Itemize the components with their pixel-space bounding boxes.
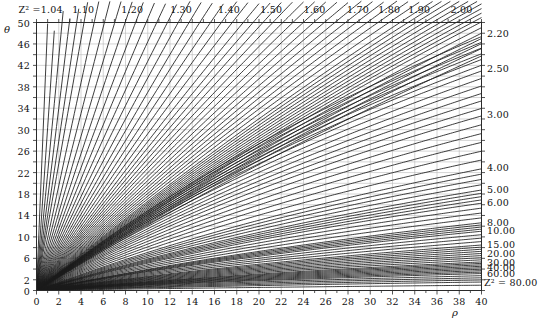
x-tick-label-18: 18 bbox=[227, 296, 247, 307]
x-tick-label-36: 36 bbox=[427, 296, 447, 307]
top-label-z2-1p10: 1.10 bbox=[71, 4, 95, 15]
right-label-z2-80p00: Z² = 80.00 bbox=[484, 277, 538, 288]
x-tick-label-40: 40 bbox=[472, 296, 492, 307]
y-tick-label-10: 10 bbox=[10, 232, 30, 243]
top-label-z2-1p90: 1.90 bbox=[407, 4, 431, 15]
x-tick-label-22: 22 bbox=[271, 296, 291, 307]
top-label-z2-1p60: 1.60 bbox=[303, 4, 327, 15]
y-tick-label-2: 2 bbox=[10, 275, 30, 286]
right-label-z2-2p20: 2.20 bbox=[487, 28, 509, 39]
x-tick-label-8: 8 bbox=[116, 296, 136, 307]
y-tick-label-26: 26 bbox=[10, 146, 30, 157]
right-label-z2-10p00: 10.00 bbox=[487, 225, 515, 236]
x-tick-label-0: 0 bbox=[27, 296, 47, 307]
x-tick-label-6: 6 bbox=[93, 296, 113, 307]
top-label-z2-2p00: 2.00 bbox=[449, 4, 473, 15]
x-tick-label-20: 20 bbox=[249, 296, 269, 307]
top-label-z2-1p50: 1.50 bbox=[259, 4, 283, 15]
right-label-z2-5p00: 5.00 bbox=[487, 184, 509, 195]
top-label-z2-1p40: 1.40 bbox=[217, 4, 241, 15]
y-tick-label-38: 38 bbox=[10, 82, 30, 93]
x-tick-label-16: 16 bbox=[205, 296, 225, 307]
right-label-z2-2p50: 2.50 bbox=[487, 63, 509, 74]
y-tick-label-42: 42 bbox=[10, 60, 30, 71]
x-tick-label-28: 28 bbox=[338, 296, 358, 307]
x-tick-label-12: 12 bbox=[160, 296, 180, 307]
x-tick-label-4: 4 bbox=[71, 296, 91, 307]
x-tick-label-34: 34 bbox=[405, 296, 425, 307]
y-tick-label-14: 14 bbox=[10, 210, 30, 221]
x-tick-label-30: 30 bbox=[360, 296, 380, 307]
y-tick-label-22: 22 bbox=[10, 168, 30, 179]
x-axis-name: ρ bbox=[452, 307, 458, 318]
y-tick-label-34: 34 bbox=[10, 103, 30, 114]
x-tick-label-32: 32 bbox=[383, 296, 403, 307]
x-tick-label-10: 10 bbox=[138, 296, 158, 307]
x-tick-label-24: 24 bbox=[294, 296, 314, 307]
x-tick-label-38: 38 bbox=[449, 296, 469, 307]
y-tick-label-46: 46 bbox=[10, 39, 30, 50]
x-tick-label-14: 14 bbox=[182, 296, 202, 307]
top-label-z2-1p30: 1.30 bbox=[169, 4, 193, 15]
y-tick-label-18: 18 bbox=[10, 189, 30, 200]
y-axis-name: θ bbox=[4, 24, 10, 35]
top-label-z2-1p80: 1.80 bbox=[377, 4, 401, 15]
nomogram-figure: Z² =1.041.101.201.301.401.501.601.701.80… bbox=[0, 0, 553, 325]
y-tick-label-6: 6 bbox=[10, 253, 30, 264]
contour-curve bbox=[37, 2, 133, 291]
top-label-z2-1p04: Z² =1.04 bbox=[18, 4, 64, 15]
right-label-z2-6p00: 6.00 bbox=[487, 197, 509, 208]
top-label-z2-1p20: 1.20 bbox=[120, 4, 144, 15]
x-tick-label-26: 26 bbox=[316, 296, 336, 307]
y-tick-label-30: 30 bbox=[10, 125, 30, 136]
y-tick-label-50: 50 bbox=[10, 18, 30, 29]
right-label-z2-4p00: 4.00 bbox=[487, 162, 509, 173]
top-label-z2-1p70: 1.70 bbox=[346, 4, 370, 15]
x-tick-label-2: 2 bbox=[49, 296, 69, 307]
plot-canvas bbox=[0, 0, 553, 325]
right-label-z2-3p00: 3.00 bbox=[487, 109, 509, 120]
